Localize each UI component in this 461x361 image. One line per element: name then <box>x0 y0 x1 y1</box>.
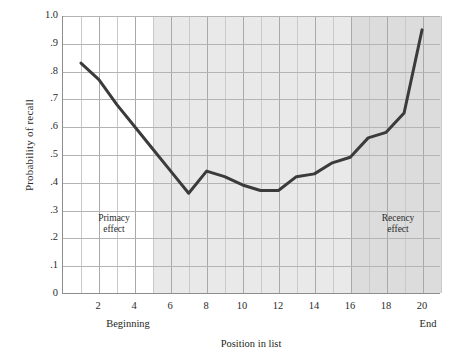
recency-effect-line1: Recency <box>362 213 434 224</box>
x-tick-label: 14 <box>294 300 334 311</box>
y-tick-label: .9 <box>30 37 58 48</box>
x-axis-title: Position in list <box>131 338 371 349</box>
y-axis-tick-labels: 0.1.2.3.4.5.6.7.8.91.0 <box>26 0 58 361</box>
plot-area <box>62 16 440 294</box>
y-tick-label: 0 <box>30 287 58 298</box>
x-tick-label: 6 <box>150 300 190 311</box>
y-tick-label: .3 <box>30 204 58 215</box>
y-tick-label: .8 <box>30 65 58 76</box>
serial-position-chart: Probability of recall 0.1.2.3.4.5.6.7.8.… <box>0 0 461 361</box>
x-tick-label: 2 <box>78 300 118 311</box>
x-tick-label: 10 <box>222 300 262 311</box>
y-tick-label: 1.0 <box>30 9 58 20</box>
recall-curve <box>63 16 440 293</box>
gridline-vertical <box>441 16 442 293</box>
y-tick-label: .5 <box>30 148 58 159</box>
y-tick-label: .7 <box>30 92 58 103</box>
recency-effect-annotation: Recency effect <box>362 213 434 235</box>
primacy-effect-line2: effect <box>78 224 150 235</box>
y-tick-label: .6 <box>30 120 58 131</box>
y-tick-label: .4 <box>30 176 58 187</box>
primacy-effect-line1: Primacy <box>78 213 150 224</box>
x-tick-label: 16 <box>330 300 370 311</box>
x-axis-tick-labels: 2468101214161820 <box>62 300 440 316</box>
axis-label-beginning: Beginning <box>88 318 168 329</box>
y-tick-label: .2 <box>30 231 58 242</box>
x-tick-label: 8 <box>186 300 226 311</box>
recency-effect-line2: effect <box>362 224 434 235</box>
x-tick-label: 12 <box>258 300 298 311</box>
axis-label-end: End <box>398 318 458 329</box>
x-tick-label: 20 <box>402 300 442 311</box>
x-tick-label: 4 <box>114 300 154 311</box>
y-tick-label: .1 <box>30 259 58 270</box>
primacy-effect-annotation: Primacy effect <box>78 213 150 235</box>
x-tick-label: 18 <box>366 300 406 311</box>
